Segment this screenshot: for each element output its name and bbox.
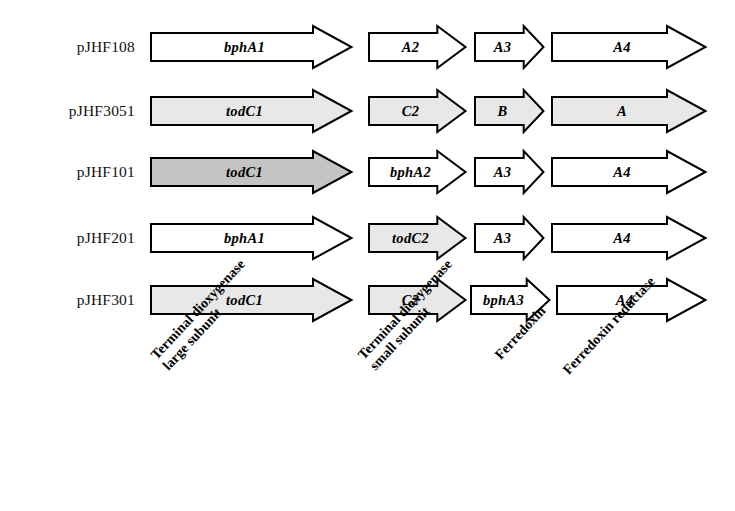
- gene-arrow: A3: [474, 215, 545, 261]
- arrow-shape: [369, 217, 466, 259]
- gene-arrow: bphA1: [150, 24, 353, 70]
- plasmid-label: pJHF3051: [0, 102, 135, 120]
- arrow-shape: [475, 26, 544, 68]
- gene-arrow: A4: [551, 215, 707, 261]
- gene-arrow: C2: [368, 88, 467, 134]
- gene-arrow: bphA2: [368, 149, 467, 195]
- plasmid-label: pJHF108: [0, 38, 135, 56]
- gene-arrow: A4: [551, 149, 707, 195]
- arrow-shape: [151, 26, 352, 68]
- arrow-shape: [151, 217, 352, 259]
- gene-arrow: todC2: [368, 215, 467, 261]
- arrow-shape: [552, 217, 706, 259]
- arrow-shape: [552, 26, 706, 68]
- arrow-shape: [369, 90, 466, 132]
- arrow-shape: [475, 90, 544, 132]
- gene-arrow: A4: [551, 24, 707, 70]
- gene-construct-diagram: pJHF108bphA1A2A3A4pJHF3051todC1C2BApJHF1…: [0, 0, 735, 511]
- arrow-shape: [475, 217, 544, 259]
- arrow-shape: [552, 90, 706, 132]
- arrow-shape: [151, 151, 352, 193]
- plasmid-label: pJHF201: [0, 229, 135, 247]
- gene-arrow: A3: [474, 149, 545, 195]
- arrow-shape: [475, 151, 544, 193]
- gene-arrow: todC1: [150, 149, 353, 195]
- arrow-shape: [369, 26, 466, 68]
- gene-arrow: A: [551, 88, 707, 134]
- gene-arrow: bphA1: [150, 215, 353, 261]
- gene-arrow: B: [474, 88, 545, 134]
- arrow-shape: [369, 151, 466, 193]
- gene-arrow: A3: [474, 24, 545, 70]
- plasmid-label: pJHF101: [0, 163, 135, 181]
- plasmid-label: pJHF301: [0, 291, 135, 309]
- gene-arrow: A2: [368, 24, 467, 70]
- arrow-shape: [552, 151, 706, 193]
- gene-arrow: todC1: [150, 88, 353, 134]
- arrow-shape: [151, 90, 352, 132]
